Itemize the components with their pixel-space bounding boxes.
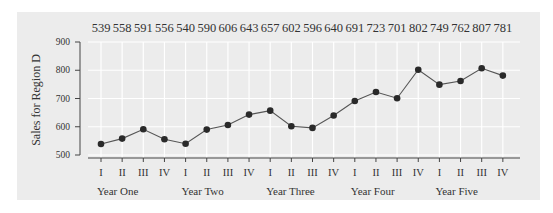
data-value-label: 643 [240, 21, 259, 35]
data-value-label: 590 [197, 21, 216, 35]
x-tick-label: I [353, 167, 357, 178]
data-value-label: 701 [388, 21, 407, 35]
data-point-marker [394, 95, 401, 102]
x-tick-label: II [372, 167, 379, 178]
data-value-label: 807 [472, 21, 491, 35]
y-tick-label: 700 [56, 94, 71, 104]
data-value-label: 781 [493, 21, 512, 35]
data-point-marker [478, 65, 485, 72]
data-point-marker [225, 122, 232, 129]
y-axis-label: Sales for Region D [29, 54, 43, 146]
data-value-label: 802 [409, 21, 428, 35]
data-value-label: 558 [113, 21, 132, 35]
data-point-marker [140, 126, 147, 133]
data-value-label: 640 [324, 21, 343, 35]
data-point-marker [203, 126, 210, 133]
x-tick-label: IV [244, 167, 255, 178]
data-point-marker [330, 112, 337, 119]
x-tick-label: II [288, 167, 295, 178]
x-tick-label: IV [159, 167, 170, 178]
x-tick-label: III [307, 167, 318, 178]
line-chart: 5395585915565405906066436576025966406917… [0, 0, 553, 213]
data-value-label: 539 [92, 21, 111, 35]
data-value-label: 591 [134, 21, 153, 35]
y-tick-label: 500 [56, 150, 71, 160]
data-point-marker [161, 136, 168, 143]
data-point-marker [436, 81, 443, 88]
data-value-label: 540 [176, 21, 195, 35]
data-value-label: 596 [303, 21, 322, 35]
data-point-marker [309, 125, 316, 132]
x-tick-label: III [138, 167, 149, 178]
data-point-marker [500, 72, 507, 79]
data-point-marker [288, 123, 295, 130]
data-value-label: 762 [451, 21, 470, 35]
data-value-label: 606 [219, 21, 238, 35]
x-tick-label: I [99, 167, 103, 178]
y-tick-label: 900 [56, 37, 71, 47]
x-group-label: Year Two [182, 185, 225, 197]
x-tick-label: II [119, 167, 126, 178]
x-tick-label: III [223, 167, 234, 178]
data-value-label: 602 [282, 21, 301, 35]
data-point-marker [98, 141, 105, 148]
x-tick-label: II [457, 167, 464, 178]
x-group-label: Year Five [435, 185, 478, 197]
y-tick-label: 800 [56, 65, 71, 75]
data-point-marker [457, 78, 464, 85]
y-tick-label: 600 [56, 122, 71, 132]
data-value-label: 691 [345, 21, 364, 35]
x-tick-label: III [392, 167, 403, 178]
data-point-marker [246, 111, 253, 118]
x-tick-label: III [476, 167, 487, 178]
data-point-marker [267, 107, 274, 114]
data-value-label: 556 [155, 21, 174, 35]
x-tick-label: IV [497, 167, 508, 178]
x-tick-label: I [268, 167, 272, 178]
x-group-label: Year Three [266, 185, 315, 197]
data-point-marker [119, 135, 126, 142]
data-point-marker [415, 66, 422, 73]
data-value-label: 749 [430, 21, 449, 35]
data-value-label: 657 [261, 21, 280, 35]
x-tick-label: IV [413, 167, 424, 178]
data-value-label: 723 [367, 21, 386, 35]
x-tick-label: II [203, 167, 210, 178]
data-point-marker [352, 98, 359, 105]
x-group-label: Year One [97, 185, 138, 197]
x-tick-label: IV [328, 167, 339, 178]
x-group-label: Year Four [351, 185, 395, 197]
data-point-marker [373, 89, 380, 96]
x-tick-label: I [184, 167, 188, 178]
x-tick-label: I [438, 167, 442, 178]
data-point-marker [182, 140, 189, 147]
